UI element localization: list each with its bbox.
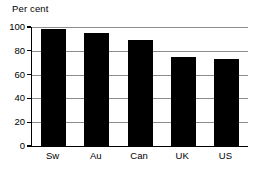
bar-uk[interactable] [171, 57, 196, 146]
x-axis-label-uk: UK [161, 150, 204, 161]
bar-slot [205, 27, 248, 146]
chart-axis-title: Per cent [12, 3, 49, 14]
bar-can[interactable] [128, 40, 153, 146]
y-axis-tick-label: 100 [9, 22, 25, 32]
x-axis-labels: SwAuCanUKUS [31, 150, 247, 161]
y-axis-tick [27, 98, 31, 99]
y-axis-tick [27, 50, 31, 51]
bar-au[interactable] [84, 33, 109, 146]
y-axis-tick-label: 40 [14, 94, 25, 104]
x-axis-label-can: Can [117, 150, 160, 161]
y-axis-tick-label: 0 [20, 141, 25, 151]
bars-layer [32, 27, 248, 146]
x-axis-label-us: US [204, 150, 247, 161]
bar-slot [75, 27, 118, 146]
y-axis-tick [27, 26, 31, 27]
bar-slot [32, 27, 75, 146]
x-axis-label-sw: Sw [31, 150, 74, 161]
y-axis-tick-label: 80 [14, 46, 25, 56]
y-axis-tick [27, 74, 31, 75]
bar-chart: Per cent 020406080100 SwAuCanUKUS [0, 0, 260, 185]
bar-sw[interactable] [41, 29, 66, 146]
y-axis-tick [27, 122, 31, 123]
y-axis-tick-label: 60 [14, 70, 25, 80]
bar-slot [118, 27, 161, 146]
bar-slot [162, 27, 205, 146]
plot-area: 020406080100 [31, 27, 248, 147]
x-axis-label-au: Au [74, 150, 117, 161]
y-axis-tick-label: 20 [14, 117, 25, 127]
bar-us[interactable] [214, 59, 239, 146]
y-axis-tick [27, 145, 31, 146]
